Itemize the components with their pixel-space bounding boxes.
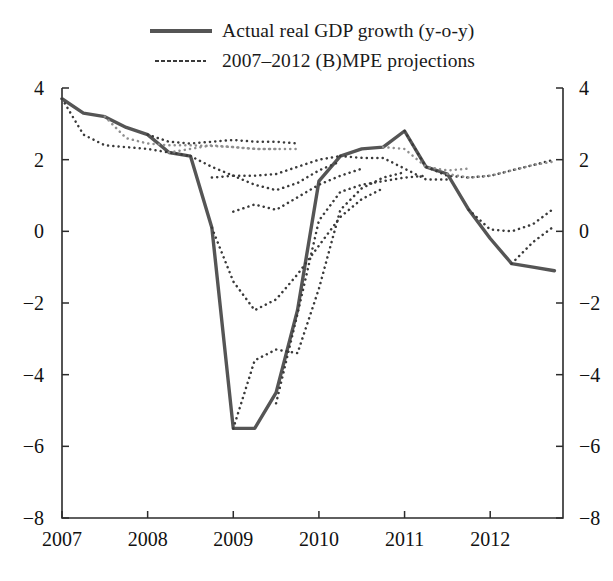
y-axis-tick-label-left: −6 xyxy=(23,435,44,458)
y-axis-tick-label-left: 4 xyxy=(34,77,44,100)
x-axis-tick-label: 2008 xyxy=(128,528,168,551)
projection-line xyxy=(405,131,555,178)
projection-line xyxy=(148,135,298,144)
y-axis-tick-label-right: −4 xyxy=(579,363,600,386)
y-axis-tick-label-right: 0 xyxy=(579,220,589,243)
projection-line xyxy=(233,172,404,428)
projection-line xyxy=(447,161,554,177)
x-axis-tick-label: 2012 xyxy=(470,528,510,551)
x-axis-tick-label: 2011 xyxy=(385,528,424,551)
y-axis-tick-label-right: −8 xyxy=(579,507,600,530)
plot-area xyxy=(0,0,613,581)
gdp-growth-chart: Actual real GDP growth (y-o-y) 2007–2012… xyxy=(0,0,613,581)
y-axis-tick-label-left: 2 xyxy=(34,148,44,171)
y-axis-tick-label-left: 0 xyxy=(34,220,44,243)
y-axis-tick-label-right: 2 xyxy=(579,148,589,171)
x-axis-tick-label: 2010 xyxy=(299,528,339,551)
y-axis-tick-label-left: −4 xyxy=(23,363,44,386)
x-axis-tick-label: 2007 xyxy=(42,528,82,551)
y-axis-tick-label-right: 4 xyxy=(579,77,589,100)
projection-line xyxy=(212,188,383,310)
projection-line xyxy=(190,156,340,176)
projection-line xyxy=(212,161,340,190)
projection-line xyxy=(512,226,555,264)
projection-line xyxy=(233,169,361,212)
x-axis-tick-label: 2009 xyxy=(213,528,253,551)
y-axis-tick-label-left: −8 xyxy=(23,507,44,530)
y-axis-tick-label-right: −6 xyxy=(579,435,600,458)
projection-line xyxy=(276,176,426,404)
y-axis-tick-label-right: −2 xyxy=(579,292,600,315)
y-axis-tick-label-left: −2 xyxy=(23,292,44,315)
projection-line xyxy=(105,117,276,149)
axis-frame xyxy=(62,88,563,518)
